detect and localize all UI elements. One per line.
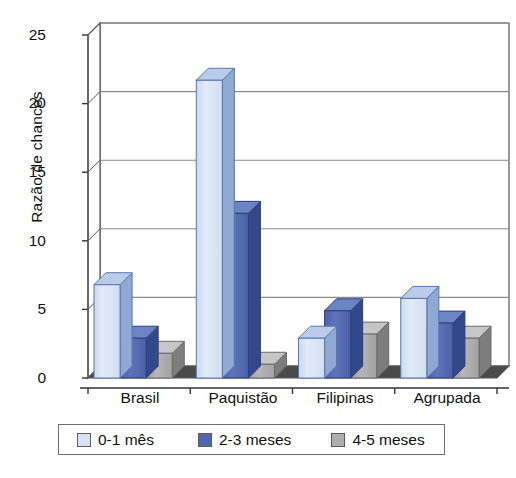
bar-filipinas-series1-side — [351, 299, 363, 378]
bar-paquisto-series0-side — [222, 68, 234, 378]
legend-label-0-1-mes: 0-1 mês — [98, 431, 154, 449]
legend-item-0-1-mes: 0-1 mês — [77, 431, 154, 449]
bar-agrupada-series0-front — [401, 298, 427, 378]
legend-item-2-3-meses: 2-3 meses — [198, 431, 291, 449]
plot-area — [0, 0, 516, 478]
legend-swatch-2-3-meses — [198, 433, 212, 447]
bar-filipinas-series0-front — [299, 338, 325, 378]
bar-paquisto-series0-front — [196, 80, 222, 378]
bar-brasil-series0-side — [120, 273, 132, 378]
bar-agrupada-series0-side — [427, 286, 439, 378]
bar-brasil-series0-front — [94, 285, 120, 378]
legend: 0-1 mês 2-3 meses 4-5 meses — [58, 424, 445, 455]
legend-swatch-4-5-meses — [331, 433, 345, 447]
bar-paquisto-series1-side — [248, 201, 260, 378]
bar-chart: Razão de chances 25 20 15 10 5 0 Brasil … — [0, 0, 516, 478]
legend-label-2-3-meses: 2-3 meses — [219, 431, 291, 449]
legend-swatch-0-1-mes — [77, 433, 91, 447]
legend-item-4-5-meses: 4-5 meses — [331, 431, 424, 449]
legend-label-4-5-meses: 4-5 meses — [352, 431, 424, 449]
